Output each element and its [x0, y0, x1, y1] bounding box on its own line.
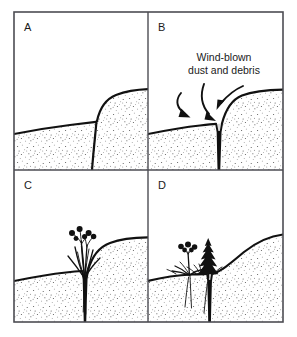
panel-d — [148, 170, 283, 322]
panel-a — [14, 12, 148, 170]
panel-label-c: C — [24, 179, 32, 191]
callout-line-1: Wind-blown — [197, 51, 252, 63]
fault-scarp-diagram: Wind-blown dust and debris — [0, 0, 297, 337]
figure-root: Wind-blown dust and debris — [0, 0, 297, 337]
panel-label-d: D — [158, 179, 166, 191]
panel-c — [14, 170, 148, 322]
panel-b: Wind-blown dust and debris — [148, 12, 283, 170]
panel-label-a: A — [24, 21, 32, 33]
panel-d-soil-left — [148, 274, 207, 322]
callout-line-2: dust and debris — [188, 64, 260, 76]
panel-label-b: B — [158, 21, 165, 33]
